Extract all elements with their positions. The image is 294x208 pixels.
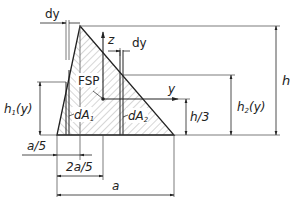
z-axis-label: z xyxy=(107,33,115,47)
h2y-label: h2(y) xyxy=(237,100,266,115)
a-label: a xyxy=(112,179,119,193)
y-axis-label: y xyxy=(167,82,176,96)
h-label: h xyxy=(282,73,290,88)
centroid-label: FSP xyxy=(78,74,100,88)
dy-top-label: dy xyxy=(45,7,60,21)
two-a-fifth-label: 2a/5 xyxy=(66,160,93,174)
a-fifth-label: a/5 xyxy=(27,139,46,153)
h-third-label: h/3 xyxy=(190,110,209,124)
triangle-diagram: dy dy h h2(y) h/3 h1(y) z y FSP xyxy=(0,0,294,208)
h1y-label: h1(y) xyxy=(4,102,33,117)
diagram-canvas: dy dy h h2(y) h/3 h1(y) z y FSP xyxy=(0,0,294,208)
dy-right-label: dy xyxy=(132,36,147,50)
